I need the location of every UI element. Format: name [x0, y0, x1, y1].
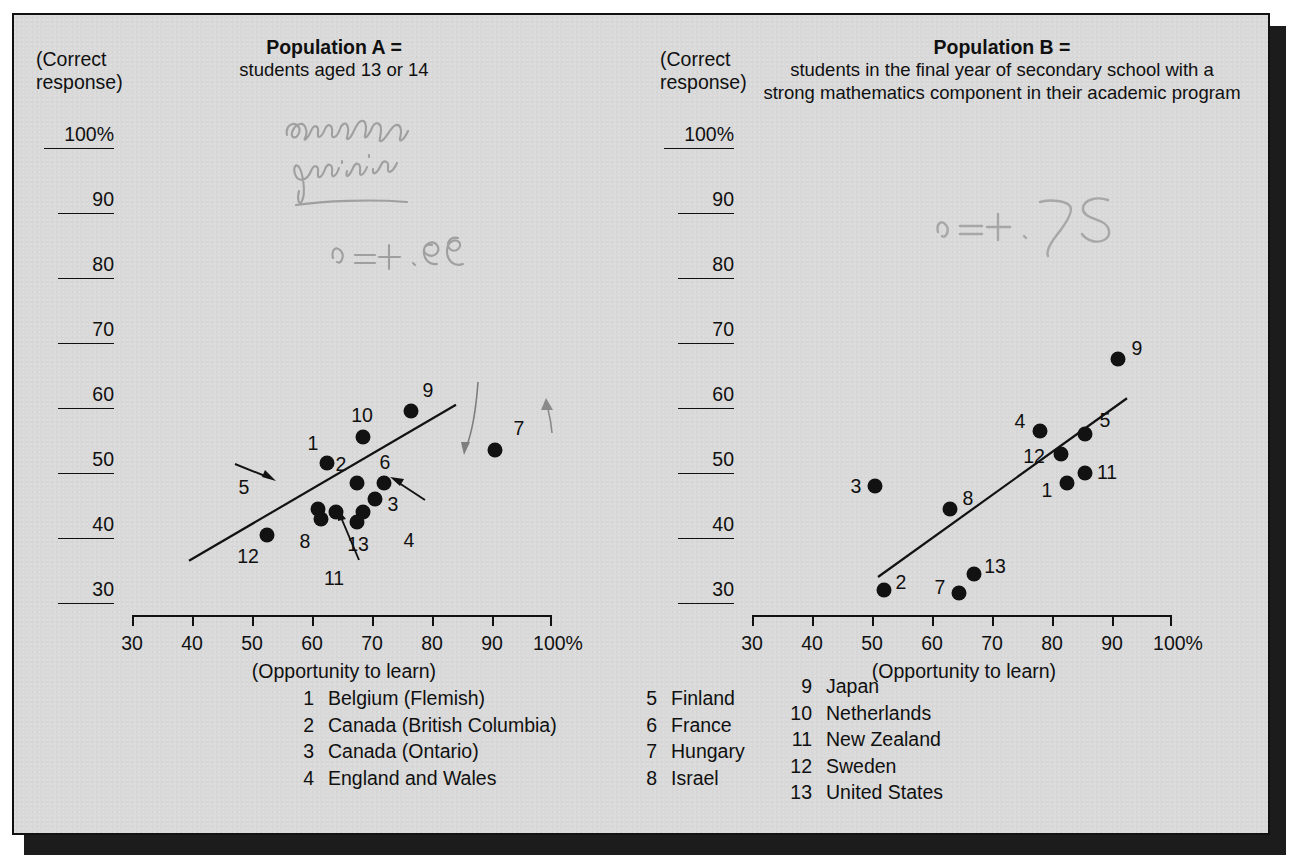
- legend-item-2: 2Canada (British Columbia): [286, 714, 557, 741]
- data-point-1: [1060, 475, 1075, 490]
- legend-item-9: 9Japan: [784, 675, 943, 702]
- legend-item-number: 13: [784, 781, 812, 804]
- legend-item-number: 5: [629, 687, 657, 710]
- data-point-1: [320, 456, 335, 471]
- legend-item-number: 1: [286, 687, 314, 710]
- legend-item-number: 7: [629, 740, 657, 763]
- legend-item-number: 6: [629, 714, 657, 737]
- x-axis-tick-b-7: [1170, 615, 1172, 626]
- legend-item-7: 7Hungary: [629, 740, 745, 767]
- legend-item-number: 11: [784, 728, 812, 751]
- panel-population-b: (Correct response) Population B = studen…: [642, 15, 1272, 675]
- data-point-12: [260, 527, 275, 542]
- x-axis-tick-b-6: [1112, 615, 1114, 626]
- data-point-label-6: 6: [380, 450, 391, 473]
- data-point-label-2: 2: [896, 571, 907, 594]
- legend-item-number: 3: [286, 740, 314, 763]
- legend-item-3: 3Canada (Ontario): [286, 740, 557, 767]
- legend-item-8: 8Israel: [629, 767, 745, 794]
- legend-item-name: Hungary: [671, 740, 745, 763]
- x-label-b-5: 80: [1041, 632, 1063, 655]
- legend-item-name: New Zealand: [826, 728, 941, 751]
- data-point-8: [943, 501, 958, 516]
- legend-item-number: 4: [286, 767, 314, 790]
- data-point-3: [368, 492, 383, 507]
- legend-item-12: 12Sweden: [784, 755, 943, 782]
- legend-item-name: Netherlands: [826, 702, 931, 725]
- x-axis-tick-a-7: [550, 615, 552, 626]
- legend-item-name: Canada (British Columbia): [328, 714, 557, 737]
- data-point-label-12: 12: [237, 544, 259, 567]
- legend-item-name: France: [671, 714, 732, 737]
- data-point-11: [1078, 466, 1093, 481]
- legend-item-name: Sweden: [826, 755, 896, 778]
- data-point-label-7: 7: [514, 417, 525, 440]
- x-label-a-3: 60: [301, 632, 323, 655]
- data-point-label-11: 11: [324, 567, 344, 590]
- legend-item-13: 13United States: [784, 781, 943, 808]
- legend-item-1: 1Belgium (Flemish): [286, 687, 557, 714]
- x-axis-tick-a-2: [252, 615, 254, 626]
- legend-item-number: 12: [784, 755, 812, 778]
- legend-item-6: 6France: [629, 714, 745, 741]
- data-point-2: [350, 475, 365, 490]
- x-label-b-2: 50: [861, 632, 883, 655]
- data-point-10: [356, 430, 371, 445]
- data-point-label-2: 2: [336, 452, 347, 475]
- x-label-b-7: 100%: [1153, 632, 1203, 655]
- panel-population-a: (Correct response) Population A = studen…: [14, 15, 654, 675]
- legend-item-name: Belgium (Flemish): [328, 687, 485, 710]
- data-point-7: [488, 443, 503, 458]
- x-label-b-6: 90: [1101, 632, 1123, 655]
- data-point-label-5: 5: [1100, 409, 1111, 432]
- x-label-a-6: 90: [481, 632, 503, 655]
- data-point-2: [877, 583, 892, 598]
- x-axis-tick-a-6: [492, 615, 494, 626]
- data-point-label-9: 9: [423, 379, 434, 402]
- legend-item-4: 4England and Wales: [286, 767, 557, 794]
- data-point-label-3: 3: [388, 493, 399, 516]
- x-axis-tick-a-1: [192, 615, 194, 626]
- figure-page: (Correct response) Population A = studen…: [0, 0, 1290, 857]
- x-axis-tick-b-1: [812, 615, 814, 626]
- legend-column-2: 5Finland6France7Hungary8Israel: [629, 687, 745, 793]
- data-point-label-4: 4: [1015, 409, 1026, 432]
- data-point-label-8: 8: [300, 529, 311, 552]
- x-label-b-1: 40: [801, 632, 823, 655]
- legend-item-name: Japan: [826, 675, 879, 698]
- x-axis-tick-b-3: [932, 615, 934, 626]
- legend-item-number: 8: [629, 767, 657, 790]
- scatter-plot-a: 12345678910111213: [14, 15, 654, 615]
- data-point-13: [350, 514, 365, 529]
- x-label-a-1: 40: [181, 632, 203, 655]
- data-point-12: [1054, 446, 1069, 461]
- x-label-a-2: 50: [241, 632, 263, 655]
- x-label-b-4: 70: [981, 632, 1003, 655]
- data-point-label-7: 7: [935, 576, 946, 599]
- trend-line: [642, 15, 1272, 615]
- data-point-9: [404, 404, 419, 419]
- legend-item-10: 10Netherlands: [784, 702, 943, 729]
- data-point-4: [1033, 423, 1048, 438]
- data-point-label-5: 5: [239, 475, 250, 498]
- legend-item-name: Canada (Ontario): [328, 740, 479, 763]
- data-point-7: [952, 586, 967, 601]
- x-axis-tick-a-0: [132, 615, 134, 626]
- legend-column-1: 1Belgium (Flemish)2Canada (British Colum…: [286, 687, 557, 793]
- data-point-6: [377, 475, 392, 490]
- data-point-label-12: 12: [1023, 444, 1045, 467]
- data-point-label-10: 10: [351, 404, 373, 427]
- data-point-3: [868, 479, 883, 494]
- x-label-b-3: 60: [921, 632, 943, 655]
- x-axis-tick-b-0: [752, 615, 754, 626]
- callout-leader-lines: [14, 15, 654, 615]
- data-point-label-4: 4: [404, 529, 415, 552]
- x-axis-tick-a-3: [312, 615, 314, 626]
- x-axis-tick-b-4: [992, 615, 994, 626]
- data-point-label-1: 1: [1042, 478, 1053, 501]
- figure-frame: (Correct response) Population A = studen…: [12, 13, 1270, 835]
- x-label-a-7: 100%: [533, 632, 583, 655]
- x-axis-tick-b-2: [872, 615, 874, 626]
- x-label-b-0: 30: [741, 632, 763, 655]
- legend-item-name: Israel: [671, 767, 719, 790]
